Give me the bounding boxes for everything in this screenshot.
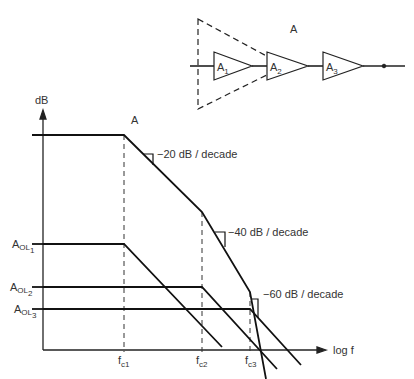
gain-level-label: AOL2 [10, 281, 33, 298]
slope-label: −60 dB / decade [263, 288, 343, 300]
response-curves [32, 135, 301, 379]
frequency-response-diagram: A A1 A2 A3 dB log f A −20 dB / decade −4… [0, 0, 414, 379]
gain-level-label: AOL3 [14, 303, 37, 320]
overall-gain-label: A [290, 23, 298, 35]
slope-label: −40 dB / decade [228, 226, 308, 238]
gain-level-label: AOL1 [12, 238, 35, 255]
y-axis-label: dB [35, 94, 48, 106]
corner-frequency-label: fc3 [245, 354, 257, 369]
corner-frequency-label: fc1 [118, 354, 130, 369]
slope-label: −20 dB / decade [157, 148, 237, 160]
corner-frequency-label: fc2 [196, 354, 208, 369]
curve-label: A [131, 114, 139, 126]
x-axis-label: log f [333, 344, 355, 356]
